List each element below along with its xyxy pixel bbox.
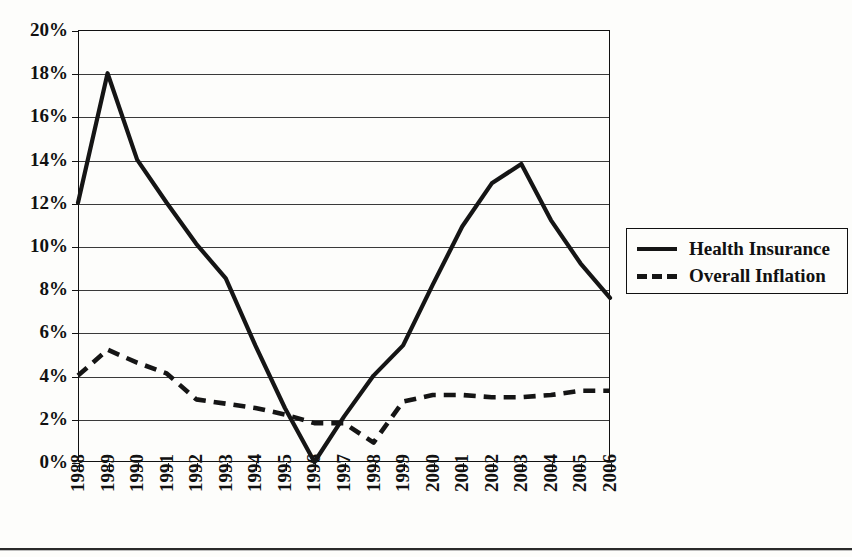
- x-tick-label: 1993: [215, 470, 237, 492]
- x-tick-label: 1991: [156, 470, 178, 492]
- x-tick-label: 2006: [599, 470, 621, 492]
- legend-label: Overall Inflation: [689, 265, 826, 287]
- legend-item: Overall Inflation: [635, 262, 839, 289]
- x-tick-label: 1989: [97, 470, 119, 492]
- x-tick-label: 1994: [244, 470, 266, 492]
- legend-item: Health Insurance: [635, 235, 839, 262]
- x-tick-label: 2005: [569, 470, 591, 492]
- x-tick-label: 2002: [481, 470, 503, 492]
- x-tick-label: 2000: [422, 470, 444, 492]
- x-tick-label: 2003: [510, 470, 532, 492]
- x-tick-label: 2001: [451, 470, 473, 492]
- series-overall-inflation: [78, 350, 610, 443]
- x-tick-label: 1996: [303, 470, 325, 492]
- dashed-line-icon: [635, 269, 679, 283]
- solid-line-icon: [635, 242, 679, 256]
- page-bottom-rule: [0, 548, 852, 551]
- series-health-insurance: [78, 73, 610, 462]
- data-series: [78, 30, 610, 462]
- x-tick-label: 1995: [274, 470, 296, 492]
- x-tick-label: 1990: [126, 470, 148, 492]
- x-tick-label: 1999: [392, 470, 414, 492]
- x-tick-label: 1998: [363, 470, 385, 492]
- chart-legend: Health InsuranceOverall Inflation: [626, 228, 848, 294]
- x-tick-label: 2004: [540, 470, 562, 492]
- legend-label: Health Insurance: [689, 238, 830, 260]
- chart-page: 20%18%16%14%12%10%8%6%4%2%0% 19881989199…: [0, 0, 852, 557]
- x-tick-label: 1988: [67, 470, 89, 492]
- x-tick-label: 1992: [185, 470, 207, 492]
- x-tick-label: 1997: [333, 470, 355, 492]
